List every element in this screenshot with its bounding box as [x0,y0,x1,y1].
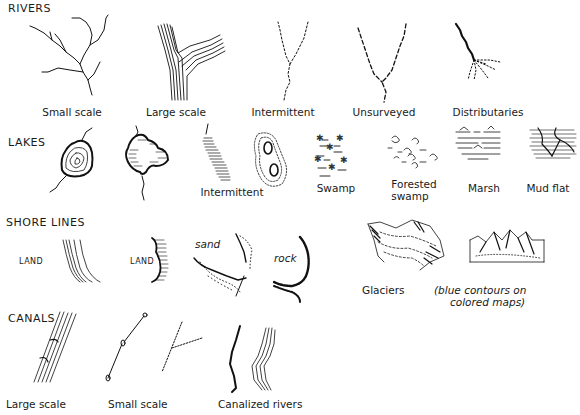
canalized-rivers-icon [230,326,275,392]
rivers-unsurveyed-label: Unsurveyed [353,106,416,118]
svg-text:✱: ✱ [316,133,324,143]
svg-text:✱: ✱ [326,142,334,152]
shoreline-contoured-icon [63,240,100,282]
rivers-heading: RIVERS [8,2,51,15]
canal-small-scale-icon [106,313,202,381]
shoreline-rock-icon [274,237,309,302]
river-intermittent-icon [278,22,308,100]
canals-canalized-rivers-label: Canalized rivers [218,398,302,410]
canals-large-scale-label: Large scale [6,398,66,410]
mountain-sketch-icon [470,230,544,262]
mud-flat-icon [530,128,576,158]
glaciers-label: Glaciers [362,284,404,296]
lake-hachured-icon [126,126,168,200]
shore-lines-heading: SHORE LINES [6,216,85,229]
lakes-forested-swamp-label-line1: Forested [391,178,436,190]
river-unsurveyed-icon [358,24,406,102]
canals-heading: CANALS [8,312,55,325]
canals-small-scale-label: Small scale [108,398,168,410]
lakes-marsh-label: Marsh [468,182,500,194]
lakes-forested-swamp-label-line2: swamp [391,190,428,202]
blue-contours-note-line2: colored maps) [450,296,525,308]
map-symbols-illustrations: ✱ ✱ ✱ ✱ ✱ ✱ [0,0,580,415]
lakes-swamp-label: Swamp [317,182,356,194]
rivers-small-scale-label: Small scale [42,106,102,118]
blue-contours-note-line1: (blue contours on [434,284,526,296]
shore-sand-label: sand [195,238,220,250]
glacier-icon [368,220,444,270]
lakes-mud-flat-label: Mud flat [527,182,570,194]
forested-swamp-icon [388,136,437,168]
rivers-large-scale-label: Large scale [146,106,206,118]
svg-text:✱: ✱ [314,154,322,164]
rivers-intermittent-label: Intermittent [251,106,314,118]
svg-text:✱: ✱ [336,133,344,143]
river-distributaries-icon [456,24,500,80]
lakes-heading: LAKES [8,136,46,149]
swamp-icon: ✱ ✱ ✱ ✱ ✱ ✱ [314,133,348,176]
svg-text:✱: ✱ [340,155,348,165]
shore-land-label-1: LAND [19,257,43,266]
shore-land-label-2: LAND [130,257,154,266]
river-large-scale-icon [158,24,225,100]
svg-text:✱: ✱ [328,162,336,172]
lake-contoured-icon [50,128,93,192]
marsh-icon [456,126,500,159]
lake-intermittent-dotted-icon [254,133,286,186]
shore-rock-label: rock [274,252,297,264]
shoreline-hachured-icon [152,238,168,282]
lake-intermittent-icon [203,124,230,180]
rivers-distributaries-label: Distributaries [453,106,524,118]
lakes-intermittent-label: Intermittent [200,186,263,198]
river-small-scale-icon [30,15,108,95]
